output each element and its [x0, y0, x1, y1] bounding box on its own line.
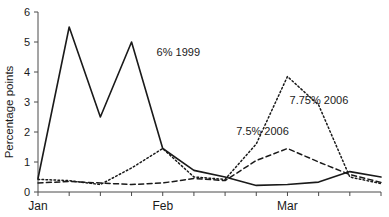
- line-chart: Percentage points 0123456 JanFebMar 6% 1…: [0, 0, 389, 217]
- y-tick-label-6: 6: [24, 6, 30, 18]
- y-tick-label-5: 5: [24, 36, 30, 48]
- y-tick-label-3: 3: [24, 96, 30, 108]
- y-tick-label-4: 4: [24, 66, 30, 78]
- x-axis-label-jan: Jan: [28, 199, 47, 213]
- data-series-group: [38, 27, 381, 185]
- x-axis-ticks: [38, 192, 381, 196]
- y-tick-label-1: 1: [24, 156, 30, 168]
- x-axis-month-labels: JanFebMar: [28, 199, 297, 213]
- x-axis-label-mar: Mar: [277, 199, 298, 213]
- annotation-solid: 6% 1999: [157, 46, 200, 58]
- y-tick-label-2: 2: [24, 126, 30, 138]
- y-axis-title: Percentage points: [3, 65, 15, 158]
- annotation-dashed: 7.5% 2006: [236, 125, 289, 137]
- y-axis-tick-labels: 0123456: [24, 6, 30, 198]
- series-annotations: 6% 19997.75% 20067.5% 2006: [157, 46, 349, 138]
- chart-canvas: Percentage points 0123456 JanFebMar 6% 1…: [0, 0, 389, 217]
- x-axis-label-feb: Feb: [152, 199, 173, 213]
- y-axis-ticks: [34, 12, 38, 192]
- annotation-dotted: 7.75% 2006: [290, 94, 349, 106]
- y-tick-label-0: 0: [24, 186, 30, 198]
- series-line-0: [38, 27, 381, 185]
